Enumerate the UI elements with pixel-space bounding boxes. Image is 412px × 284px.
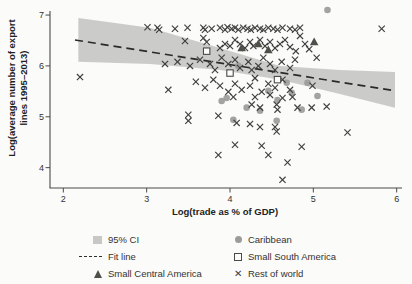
scatter-chart-figure: 456723456 Log(average number of export l… [0,0,412,284]
legend-label: Rest of world [248,268,303,279]
legend-label: Small South America [248,251,336,262]
x-tick-label: 2 [61,194,66,204]
x-axis-label: Log(trade as % of GDP) [50,206,400,217]
legend-column-2: Caribbean Small South America ✕ Rest of … [216,231,336,282]
legend-item-fit-line: Fit line [76,248,202,265]
x-tick-label: 4 [227,194,232,204]
legend-item-95ci: 95% CI [76,231,202,248]
legend-label: Small Central America [108,268,202,279]
y-tick-label: 7 [39,10,44,20]
legend-label: Caribbean [248,234,292,245]
legend-item-small-south-america: Small South America [216,248,336,265]
triangle-marker-icon [94,270,102,278]
legend-item-caribbean: Caribbean [216,231,336,248]
legend-column-1: 95% CI Fit line Small Central America [76,231,202,282]
y-axis-label: Log(average number of export lines 1995–… [6,19,29,156]
legend-item-rest-of-world: ✕ Rest of world [216,265,336,282]
legend-label: 95% CI [108,234,139,245]
x-marker-icon: ✕ [234,269,242,279]
x-tick-label: 6 [394,194,399,204]
y-axis-label-line1: Log(average number of export [6,19,18,156]
circle-marker-icon [235,236,242,243]
legend-label: Fit line [108,251,136,262]
x-tick-label: 3 [144,194,149,204]
legend-item-small-central-america: Small Central America [76,265,202,282]
plot-area: 456723456 [0,0,412,230]
y-tick-label: 4 [39,163,44,173]
x-tick-label: 5 [311,194,316,204]
dashed-line-icon [79,256,102,257]
y-tick-label: 6 [39,61,44,71]
ci-band-swatch-icon [93,236,102,244]
open-square-marker-icon [234,253,242,261]
y-tick-label: 5 [39,112,44,122]
y-axis-label-line2: lines 1995–2013) [17,19,29,156]
legend: 95% CI Fit line Small Central America Ca… [0,231,412,282]
